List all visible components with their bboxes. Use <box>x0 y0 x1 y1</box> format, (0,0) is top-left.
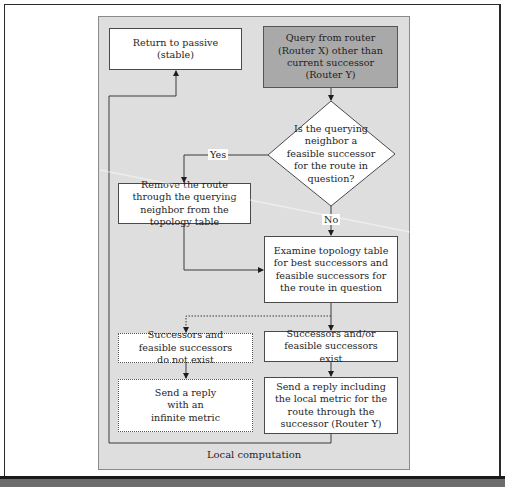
return-to-passive-node: Return to passive (stable) <box>109 28 242 70</box>
examine-topology-node: Examine topology table for best successo… <box>264 236 398 303</box>
decision-text: Is the querying neighbor a feasible succ… <box>286 128 376 180</box>
reply-local-metric-node: Send a reply including the local metric … <box>264 377 398 434</box>
page-bottom-bar <box>0 476 505 487</box>
successors-exist-node: Successors and/or feasible successors ex… <box>264 331 398 362</box>
query-start-node: Query from router (Router X) other than … <box>263 26 398 88</box>
no-edge-label: No <box>322 214 340 225</box>
successors-not-exist-node: Successors and feasible successors do no… <box>118 333 253 363</box>
reply-infinite-metric-node: Send a reply with an infinite metric <box>118 379 253 432</box>
panel-caption: Local computation <box>98 449 410 460</box>
yes-edge-label: Yes <box>208 149 228 160</box>
remove-route-node: Remove the route through the querying ne… <box>118 183 251 224</box>
